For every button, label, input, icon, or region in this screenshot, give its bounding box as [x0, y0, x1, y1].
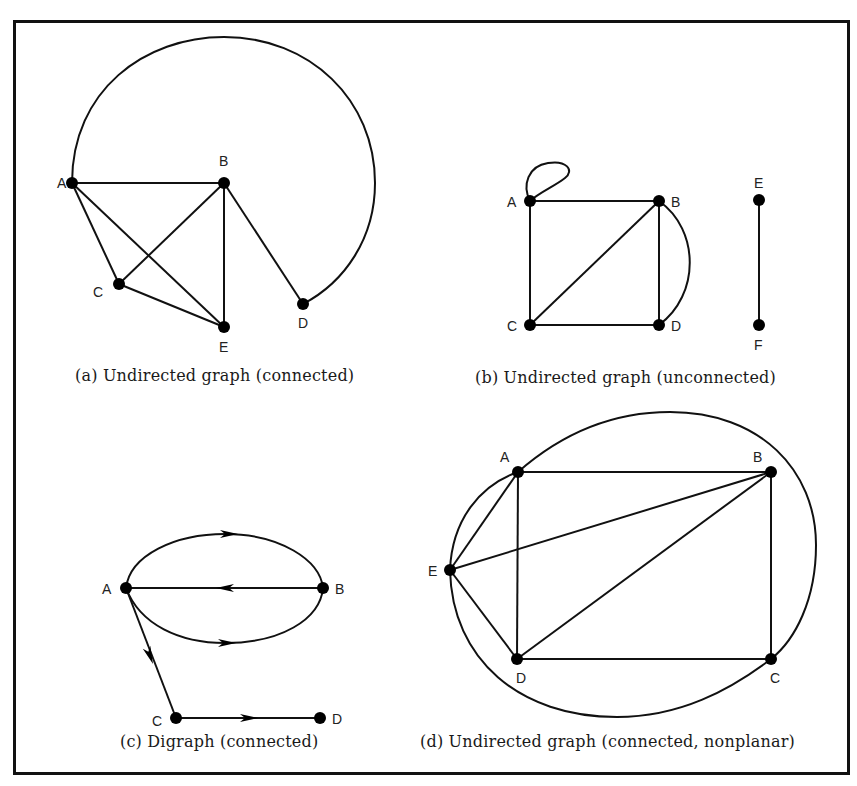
node-b-a — [524, 195, 536, 207]
edge-a-BC — [119, 183, 224, 284]
caption-panel-c: (c) Digraph (connected) — [120, 732, 318, 751]
edge-d-BD — [517, 472, 771, 659]
node-label-a-a: A — [57, 175, 67, 191]
edge-a-CE — [119, 284, 224, 327]
panel-c-graph: ABCD — [102, 530, 344, 729]
node-b-c — [524, 319, 536, 331]
node-label-d-b: B — [753, 449, 762, 465]
node-a-e — [218, 321, 230, 333]
node-c-a — [120, 582, 132, 594]
node-label-d-e: E — [428, 563, 437, 579]
edge-c-AB-upper — [126, 534, 323, 588]
edge-b-AA-loop — [527, 162, 570, 201]
node-label-d-d: D — [516, 670, 526, 686]
panel-a-graph: ABCDE — [57, 37, 375, 355]
figure-canvas: ABCDE ABCDEF ABCD — [0, 0, 857, 786]
edge-a-AC — [72, 183, 119, 284]
node-a-c — [113, 278, 125, 290]
edge-b-BC — [530, 201, 659, 325]
node-d-c — [765, 653, 777, 665]
node-label-a-b: B — [219, 153, 228, 169]
panel-d-graph: ABCDE — [428, 412, 816, 717]
node-label-c-b: B — [335, 581, 344, 597]
node-b-b — [653, 195, 665, 207]
edge-c-AB-lower — [126, 588, 323, 643]
node-label-c-c: C — [152, 713, 162, 729]
node-label-a-e: E — [219, 339, 228, 355]
node-c-d — [314, 712, 326, 724]
node-c-b — [317, 582, 329, 594]
node-d-e — [444, 564, 456, 576]
node-label-c-d: D — [332, 711, 342, 727]
edge-b-BD-arc — [659, 201, 690, 325]
graph-drawing: ABCDE ABCDEF ABCD — [0, 0, 857, 786]
node-a-a — [66, 177, 78, 189]
node-label-b-f: F — [754, 337, 763, 353]
node-label-c-a: A — [102, 581, 112, 597]
panel-b-graph: ABCDEF — [507, 162, 765, 353]
node-d-a — [512, 466, 524, 478]
node-b-d — [653, 319, 665, 331]
edge-a-BD — [224, 183, 303, 304]
node-a-d — [297, 298, 309, 310]
node-b-f — [753, 319, 765, 331]
node-c-c — [170, 712, 182, 724]
node-label-b-b: B — [671, 194, 680, 210]
node-label-b-d: D — [671, 318, 681, 334]
node-a-b — [218, 177, 230, 189]
node-b-e — [753, 194, 765, 206]
node-label-a-c: C — [93, 284, 103, 300]
edge-d-AD — [517, 472, 518, 659]
caption-panel-a: (a) Undirected graph (connected) — [75, 366, 354, 385]
node-label-a-d: D — [298, 315, 308, 331]
caption-panel-b: (b) Undirected graph (unconnected) — [475, 368, 776, 387]
edge-d-ED — [450, 570, 517, 659]
node-d-d — [511, 653, 523, 665]
node-label-d-c: C — [770, 670, 780, 686]
node-label-b-e: E — [754, 175, 763, 191]
caption-panel-d: (d) Undirected graph (connected, nonplan… — [420, 732, 795, 751]
node-label-d-a: A — [500, 449, 510, 465]
edge-d-AE — [450, 472, 518, 570]
node-label-b-c: C — [507, 318, 517, 334]
node-label-b-a: A — [507, 194, 517, 210]
edge-d-EB — [450, 472, 771, 570]
node-d-b — [765, 466, 777, 478]
